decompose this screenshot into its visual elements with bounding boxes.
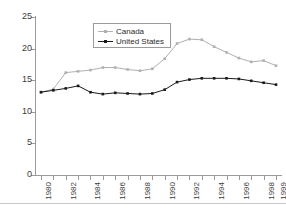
x-axis-tick: [189, 176, 190, 180]
x-axis-label: 1990: [169, 182, 177, 200]
data-point: [176, 81, 179, 84]
x-axis-tick: [78, 176, 79, 180]
x-axis-line: [35, 175, 282, 176]
data-point: [188, 78, 191, 81]
data-point: [238, 57, 241, 60]
data-point: [163, 57, 166, 60]
data-point: [163, 88, 166, 91]
y-axis-label: 0: [2, 170, 32, 179]
data-point: [151, 92, 154, 95]
legend-label-canada: Canada: [116, 27, 144, 36]
data-point: [40, 91, 43, 94]
data-point: [126, 68, 129, 71]
data-point: [188, 38, 191, 41]
legend-item-united-states: United States: [98, 36, 164, 46]
data-point: [225, 51, 228, 54]
x-axis-tick: [202, 176, 203, 180]
x-axis-tick: [41, 176, 42, 180]
y-axis-label: 10: [2, 107, 32, 116]
x-axis-label: 1984: [94, 182, 102, 200]
data-point: [262, 59, 265, 62]
x-axis-tick: [276, 176, 277, 180]
data-point: [200, 38, 203, 41]
x-axis-tick: [251, 176, 252, 180]
y-axis-label: 15: [2, 75, 32, 84]
data-point: [225, 77, 228, 80]
chart-legend: Canada United States: [93, 23, 171, 48]
data-point: [250, 61, 253, 64]
data-point: [213, 77, 216, 80]
data-point: [250, 80, 253, 83]
data-point: [64, 71, 67, 74]
data-point: [102, 66, 105, 69]
bottom-divider: [0, 203, 286, 204]
legend-swatch-canada: [98, 28, 113, 35]
legend-item-canada: Canada: [98, 26, 144, 36]
legend-label-united-states: United States: [116, 37, 164, 46]
x-axis-tick: [227, 176, 228, 180]
x-axis-label: 1980: [45, 182, 53, 200]
x-axis-tick: [90, 176, 91, 180]
y-axis-label: 5: [2, 138, 32, 147]
data-point: [275, 64, 278, 67]
x-axis-label: 1994: [218, 182, 226, 200]
x-axis-tick: [115, 176, 116, 180]
data-point: [176, 42, 179, 45]
x-axis-tick: [214, 176, 215, 180]
data-point: [275, 83, 278, 86]
data-point: [77, 70, 80, 73]
x-axis-label: 1992: [193, 182, 201, 200]
x-axis-tick: [177, 176, 178, 180]
data-point: [262, 81, 265, 84]
data-point: [139, 69, 142, 72]
x-axis-label: 1986: [119, 182, 127, 200]
legend-marker: [104, 30, 107, 33]
x-axis-tick: [264, 176, 265, 180]
x-axis-label: 1988: [144, 182, 152, 200]
x-axis-tick: [53, 176, 54, 180]
x-axis-tick: [103, 176, 104, 180]
legend-swatch-united-states: [98, 38, 113, 45]
x-axis-tick: [140, 176, 141, 180]
x-axis-tick: [165, 176, 166, 180]
x-axis-label: 1999: [280, 182, 286, 200]
x-axis-tick: [128, 176, 129, 180]
data-point: [64, 87, 67, 90]
y-axis-label: 20: [2, 44, 32, 53]
data-point: [52, 89, 55, 92]
x-axis-label: 1998: [268, 182, 276, 200]
data-point: [114, 92, 117, 95]
x-axis-tick: [152, 176, 153, 180]
data-point: [213, 45, 216, 48]
data-point: [77, 85, 80, 88]
data-point: [126, 92, 129, 95]
data-point: [102, 93, 105, 96]
data-point: [151, 68, 154, 71]
data-point: [89, 91, 92, 94]
x-axis-tick: [66, 176, 67, 180]
data-point: [114, 66, 117, 69]
data-point: [200, 77, 203, 80]
x-axis-label: 1982: [70, 182, 78, 200]
x-axis-tick: [239, 176, 240, 180]
data-point: [139, 93, 142, 96]
data-point: [238, 78, 241, 81]
legend-marker: [104, 40, 107, 43]
x-axis-label: 1996: [243, 182, 251, 200]
chart-screenshot: 0510152025 19801982198419861988199019921…: [0, 0, 286, 212]
series-line-united-states: [41, 78, 276, 94]
data-point: [89, 69, 92, 72]
y-axis-label: 25: [2, 12, 32, 21]
